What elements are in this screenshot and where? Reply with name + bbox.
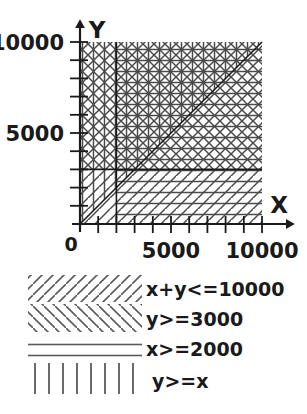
- plot-svg: 10000 5000 5000 10000 0 Y X: [0, 0, 307, 262]
- constraint-region-figure: 10000 5000 5000 10000 0 Y X: [0, 0, 307, 414]
- legend-label-3: y>=x: [152, 370, 208, 392]
- origin-label: 0: [64, 233, 77, 255]
- y-tick-label-5000: 5000: [6, 122, 64, 146]
- legend-swatch-vertical-lines: [28, 363, 142, 394]
- y-tick-label-10000: 10000: [0, 31, 64, 55]
- y-axis-label: Y: [88, 17, 106, 43]
- legend-item-3: y>=x: [28, 363, 208, 394]
- legend-swatch-backward-diagonal: [28, 304, 142, 332]
- legend-swatch-forward-diagonal: [28, 275, 142, 302]
- legend-swatch-horizontal-lines: [28, 335, 142, 359]
- x-tick-label-10000: 10000: [225, 239, 298, 262]
- legend-label-0: x+y<=10000: [146, 278, 285, 300]
- legend: x+y<=10000 y>=3000 x>=2000 y>=x: [0, 262, 307, 414]
- legend-label-2: x>=2000: [146, 338, 243, 360]
- legend-item-1: y>=3000: [28, 304, 243, 332]
- x-tick-label-5000: 5000: [142, 239, 200, 262]
- plot-area: 10000 5000 5000 10000 0 Y X: [0, 0, 307, 262]
- legend-item-2: x>=2000: [28, 335, 243, 360]
- legend-item-0: x+y<=10000: [28, 275, 285, 302]
- legend-label-1: y>=3000: [146, 308, 243, 330]
- legend-svg: x+y<=10000 y>=3000 x>=2000 y>=x: [0, 262, 307, 414]
- x-axis-label: X: [270, 192, 288, 218]
